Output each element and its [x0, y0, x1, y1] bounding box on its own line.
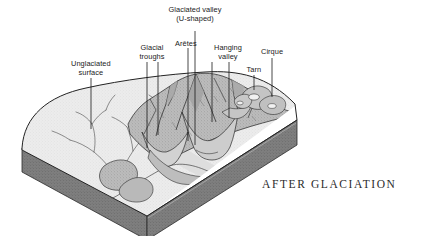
figure-caption: AFTER GLACIATION — [262, 178, 397, 190]
label-glaciated-valley: Glaciated valley (U-shaped) — [169, 6, 222, 23]
glaciation-block-diagram — [0, 0, 426, 236]
block-top-surface — [0, 50, 426, 236]
label-cirque: Cirque — [261, 48, 283, 57]
label-tarn: Tarn — [247, 66, 262, 75]
label-hanging-valley: Hanging valley — [214, 44, 242, 61]
label-unglaciated-surface: Unglaciated surface — [71, 60, 111, 77]
figure-root: Unglaciated surfaceGlacial troughsArêtes… — [0, 0, 426, 236]
label-aretes: Arêtes — [175, 40, 197, 49]
label-glacial-troughs: Glacial troughs — [140, 44, 165, 61]
